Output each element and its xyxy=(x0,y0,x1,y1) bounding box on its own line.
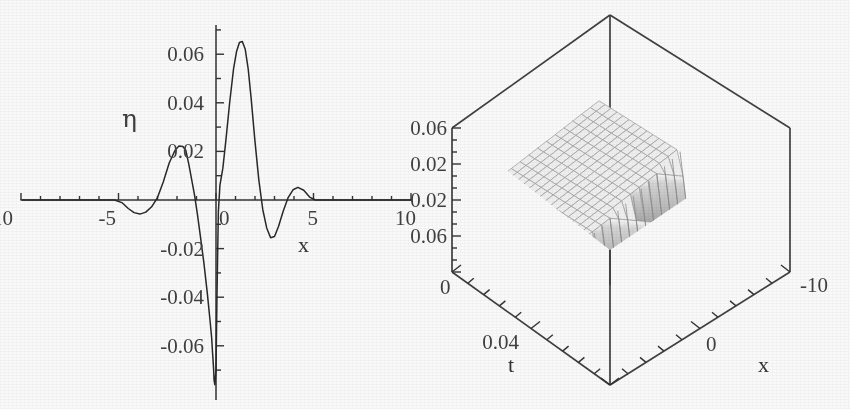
mesh-facet xyxy=(627,376,642,387)
mesh-facet xyxy=(692,233,707,244)
mesh-facet xyxy=(491,211,506,222)
mesh-facet xyxy=(591,354,606,365)
y-tick-label: -0.02 xyxy=(160,237,204,261)
mesh-facet xyxy=(664,314,679,325)
x-axis-ticks xyxy=(21,193,411,200)
t-minor-tick xyxy=(468,278,474,283)
mesh-facet xyxy=(489,246,504,257)
z-tick-label: 0.06 xyxy=(410,116,447,140)
x3d-minor-tick xyxy=(676,335,682,340)
mesh-facet xyxy=(525,244,540,255)
mesh-facet xyxy=(533,212,548,223)
mesh-facet xyxy=(690,293,705,304)
mesh-facet xyxy=(672,282,687,293)
mesh-facet xyxy=(687,279,702,290)
t-major-tick xyxy=(452,265,461,272)
mesh-facet xyxy=(600,372,615,383)
mesh-facet xyxy=(684,290,699,301)
mesh-facet xyxy=(634,320,649,331)
mesh-facet xyxy=(668,353,683,364)
mesh-facet xyxy=(644,338,659,349)
mesh-facet xyxy=(462,217,477,228)
mesh-facet xyxy=(746,267,761,278)
x3d-minor-tick xyxy=(658,346,664,351)
mesh-facet xyxy=(695,247,710,258)
mesh-facet xyxy=(698,237,713,248)
mesh-facet xyxy=(652,281,667,292)
y-tick-label: 0.02 xyxy=(167,139,204,163)
mesh-facet xyxy=(566,245,581,264)
x3d-tick-label: -10 xyxy=(800,273,828,297)
mesh-facet xyxy=(567,363,582,374)
mesh-facet xyxy=(669,243,684,254)
mesh-facet xyxy=(711,269,726,280)
x-tick-label: 5 xyxy=(308,206,319,230)
mesh-facet xyxy=(471,235,486,246)
mesh-facet xyxy=(638,359,653,370)
mesh-facet xyxy=(694,308,709,319)
mesh-facet xyxy=(594,368,609,379)
mesh-facet xyxy=(729,305,744,316)
mesh-facet xyxy=(578,313,593,332)
mesh-facet xyxy=(699,262,714,273)
shock-wall-facet xyxy=(590,265,605,314)
mesh-facet xyxy=(638,334,653,345)
mesh-facet xyxy=(722,252,737,263)
mesh-facet xyxy=(548,234,563,245)
mesh-facet xyxy=(615,394,630,405)
mesh-facet xyxy=(609,390,624,401)
mesh-facet xyxy=(524,194,539,205)
x3d-major-tick xyxy=(781,265,790,272)
mesh-facet xyxy=(602,312,617,323)
mesh-facet xyxy=(683,240,698,251)
mesh-facet xyxy=(646,278,661,289)
t-tick-label: 0 xyxy=(440,275,451,299)
shock-wall-facet xyxy=(537,276,552,310)
mesh-facet xyxy=(554,238,569,249)
mesh-facet xyxy=(573,342,588,353)
mesh-facet xyxy=(667,328,682,339)
mesh-facet xyxy=(587,314,602,325)
mesh-facet xyxy=(617,358,632,369)
mesh-facet xyxy=(604,301,619,312)
mesh-facet xyxy=(634,269,649,280)
z-tick-label: 0.06 xyxy=(410,224,447,248)
mesh-facet xyxy=(623,337,638,348)
mesh-facet xyxy=(688,304,703,315)
mesh-facet xyxy=(752,271,767,282)
mesh-facet xyxy=(625,302,640,313)
mesh-facet xyxy=(610,305,625,316)
mesh-facet xyxy=(518,190,533,201)
mesh-facet xyxy=(531,273,546,284)
x3d-minor-tick xyxy=(712,312,718,317)
mesh-facet xyxy=(646,302,661,313)
mesh-facet xyxy=(467,196,482,207)
y-tick-label: -0.04 xyxy=(160,285,204,309)
t-minor-tick xyxy=(499,301,505,306)
mesh-facet xyxy=(519,265,534,276)
mesh-facet xyxy=(545,220,560,231)
mesh-facet xyxy=(628,291,643,302)
shock-wall-facet xyxy=(543,310,558,359)
mesh-facet xyxy=(708,305,723,316)
mesh-facet xyxy=(740,263,755,274)
mesh-facet xyxy=(555,356,570,367)
mesh-facet xyxy=(459,202,474,213)
mesh-facet xyxy=(717,273,732,284)
y-axis-title: η xyxy=(122,104,137,133)
plot-2d-wave-profile: -10-50510 0.060.040.02-0.02-0.04-0.06 η … xyxy=(0,0,425,409)
mesh-facet xyxy=(515,226,530,237)
mesh-facet xyxy=(507,233,522,244)
mesh-facet xyxy=(540,266,555,277)
mesh-facet xyxy=(560,242,575,253)
mesh-facet xyxy=(510,247,525,258)
mesh-facet xyxy=(728,256,743,267)
mesh-facet xyxy=(660,250,675,261)
mesh-facet xyxy=(476,189,491,200)
x-tick-label: 0 xyxy=(219,206,230,230)
mesh-facet xyxy=(737,274,752,285)
shock-wall-facet xyxy=(636,221,651,270)
mesh-facet xyxy=(527,233,542,244)
mesh-facet xyxy=(617,333,632,344)
mesh-facet xyxy=(509,197,524,208)
